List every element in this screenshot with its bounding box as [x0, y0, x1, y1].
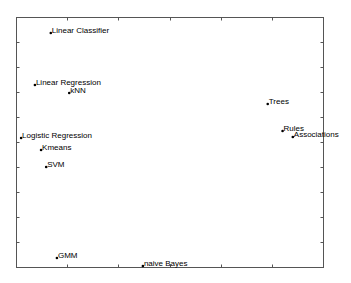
data-point: SVM [45, 160, 65, 169]
data-point: Trees [266, 97, 288, 106]
data-point: Linear Classifier [49, 26, 109, 35]
data-point: GMM [56, 251, 78, 260]
data-point: Logistic Regression [20, 131, 92, 140]
point-label: naive Bayes [144, 259, 188, 268]
data-point: kNN [68, 86, 86, 95]
point-label: Linear Classifier [52, 26, 110, 35]
scatter-chart: Linear ClassifierLinear RegressionkNNTre… [0, 0, 351, 283]
data-point: Associations [292, 130, 339, 139]
data-point: Kmeans [40, 143, 72, 152]
point-label: GMM [58, 251, 78, 260]
point-label: SVM [47, 160, 65, 169]
point-label: kNN [70, 86, 86, 95]
point-label: Linear Regression [36, 78, 101, 87]
point-label: Trees [269, 97, 289, 106]
point-label: Kmeans [42, 143, 71, 152]
point-label: Logistic Regression [22, 131, 92, 140]
data-point: Linear Regression [34, 78, 101, 87]
data-points: Linear ClassifierLinear RegressionkNNTre… [20, 26, 339, 268]
data-point: naive Bayes [142, 259, 188, 268]
point-label: Associations [294, 130, 339, 139]
